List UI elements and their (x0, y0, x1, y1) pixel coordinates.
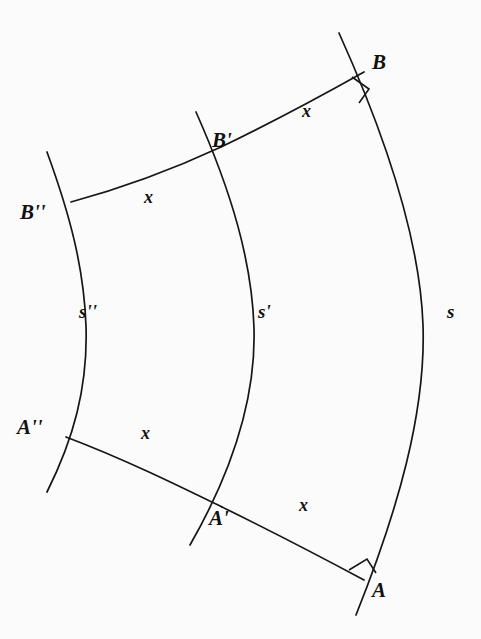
arc-label-s-double-prime: s'' (79, 302, 97, 321)
point-label-A-double-prime: A'' (17, 417, 43, 438)
connector-lower-left (66, 437, 222, 507)
arc-s-double-prime (47, 152, 86, 492)
point-label-A-prime: A' (209, 508, 229, 529)
point-label-A-text: A (372, 578, 386, 602)
geometry-figure: B B' B'' A A' A'' s s' s'' x x x x (0, 0, 481, 639)
arc-label-s-double-prime-text: s'' (79, 301, 97, 322)
diagram-canvas (0, 0, 481, 639)
segment-label-x-top-left-text: x (144, 187, 153, 207)
point-label-B-text: B (372, 50, 386, 74)
segment-label-x-top-right-text: x (302, 101, 311, 121)
segment-label-x-bottom-right: x (299, 496, 308, 514)
point-label-B: B (372, 52, 386, 73)
arc-label-s-prime: s' (258, 302, 271, 321)
arc-label-s-prime-text: s' (258, 301, 271, 322)
arc-s-prime (190, 112, 254, 545)
point-label-B-prime-text: B' (212, 128, 232, 152)
connector-lower-right (222, 507, 364, 580)
connector-upper-right (221, 72, 364, 147)
segment-label-x-bottom-left: x (141, 424, 150, 442)
segment-label-x-top-right: x (302, 102, 311, 120)
arc-label-s: s (447, 302, 454, 321)
point-label-A-prime-text: A' (209, 506, 229, 530)
point-label-B-double-prime-text: B'' (20, 200, 46, 224)
segment-label-x-bottom-left-text: x (141, 423, 150, 443)
arc-s (339, 33, 423, 615)
point-label-A: A (372, 580, 386, 601)
segment-label-x-bottom-right-text: x (299, 495, 308, 515)
arc-label-s-text: s (447, 301, 454, 322)
point-label-B-prime: B' (212, 130, 232, 151)
point-label-A-double-prime-text: A'' (17, 415, 43, 439)
point-label-B-double-prime: B'' (20, 202, 46, 223)
segment-label-x-top-left: x (144, 188, 153, 206)
right-angle-icon-at-A (349, 559, 376, 573)
